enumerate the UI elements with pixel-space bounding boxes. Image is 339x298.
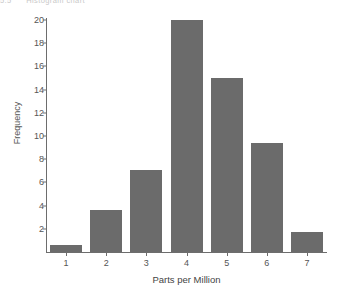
y-tick-label: 2 [4, 224, 44, 234]
histogram-bar [130, 170, 162, 252]
y-tick-label: 8 [4, 154, 44, 164]
x-tick-label: 4 [171, 258, 203, 268]
x-tick-mark [146, 253, 147, 256]
y-tick-label: 14 [4, 85, 44, 95]
y-tick-label: 20 [4, 15, 44, 25]
histogram-bar [251, 143, 283, 252]
y-tick-label: 12 [4, 108, 44, 118]
x-tick-mark [66, 253, 67, 256]
x-tick-label: 5 [211, 258, 243, 268]
histogram-bar [90, 210, 122, 252]
x-axis-label: Parts per Million [46, 274, 327, 285]
x-tick-label: 3 [130, 258, 162, 268]
x-tick-label: 7 [291, 258, 323, 268]
y-tick-label: 18 [4, 38, 44, 48]
x-tick-mark [106, 253, 107, 256]
plot-area [46, 20, 327, 252]
histogram-bar [291, 232, 323, 252]
x-tick-label: 6 [251, 258, 283, 268]
x-tick-label: 2 [90, 258, 122, 268]
x-tick-mark [307, 253, 308, 256]
x-tick-label: 1 [50, 258, 82, 268]
y-axis-ticks: 2468101214161820 [0, 0, 44, 298]
histogram-chart: Frequency 2468101214161820 Parts per Mil… [0, 0, 339, 298]
y-tick-label: 10 [4, 131, 44, 141]
histogram-bar [50, 245, 82, 252]
x-tick-mark [187, 253, 188, 256]
y-tick-label: 16 [4, 61, 44, 71]
y-tick-label: 4 [4, 201, 44, 211]
x-tick-mark [267, 253, 268, 256]
y-tick-label: 6 [4, 177, 44, 187]
x-tick-mark [227, 253, 228, 256]
histogram-bar [211, 78, 243, 252]
histogram-bar [171, 20, 203, 252]
